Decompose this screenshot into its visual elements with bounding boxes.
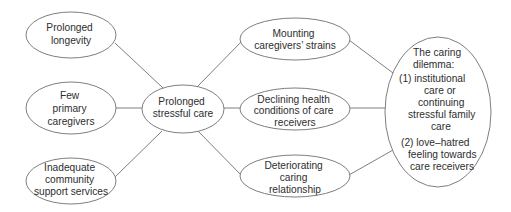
caring-dilemma-diagram: Prolonged longevity Few primary caregive… <box>0 0 511 212</box>
node-caring-dilemma: The caring dilemma: (1) institutional ca… <box>385 37 491 187</box>
edge-deteriorating-relationship-to-caring-dilemma <box>349 150 393 175</box>
edge-stressful-care-to-deteriorating-relationship <box>197 130 243 177</box>
node-label: Inadequate community support services <box>34 162 108 197</box>
edge-mounting-strains-to-caring-dilemma <box>349 40 393 73</box>
node-deteriorating-caring-relationship: Deteriorating caring relationship <box>240 155 350 197</box>
node-mounting-caregivers-strains: Mounting caregivers’ strains <box>240 18 350 60</box>
edge-inadequate-services-to-stressful-care <box>115 131 162 177</box>
node-prolonged-longevity: Prolonged longevity <box>26 12 116 58</box>
node-label: Prolonged stressful care <box>153 96 214 119</box>
node-inadequate-community-support-services: Inadequate community support services <box>26 158 116 204</box>
node-few-primary-caregivers: Few primary caregivers <box>26 82 116 134</box>
edge-longevity-to-stressful-care <box>115 43 163 88</box>
node-ellipse <box>240 18 350 60</box>
edge-stressful-care-to-mounting-strains <box>197 40 243 87</box>
node-prolonged-stressful-care: Prolonged stressful care <box>142 85 224 133</box>
node-declining-health-conditions: Declining health conditions of care rece… <box>240 88 350 130</box>
